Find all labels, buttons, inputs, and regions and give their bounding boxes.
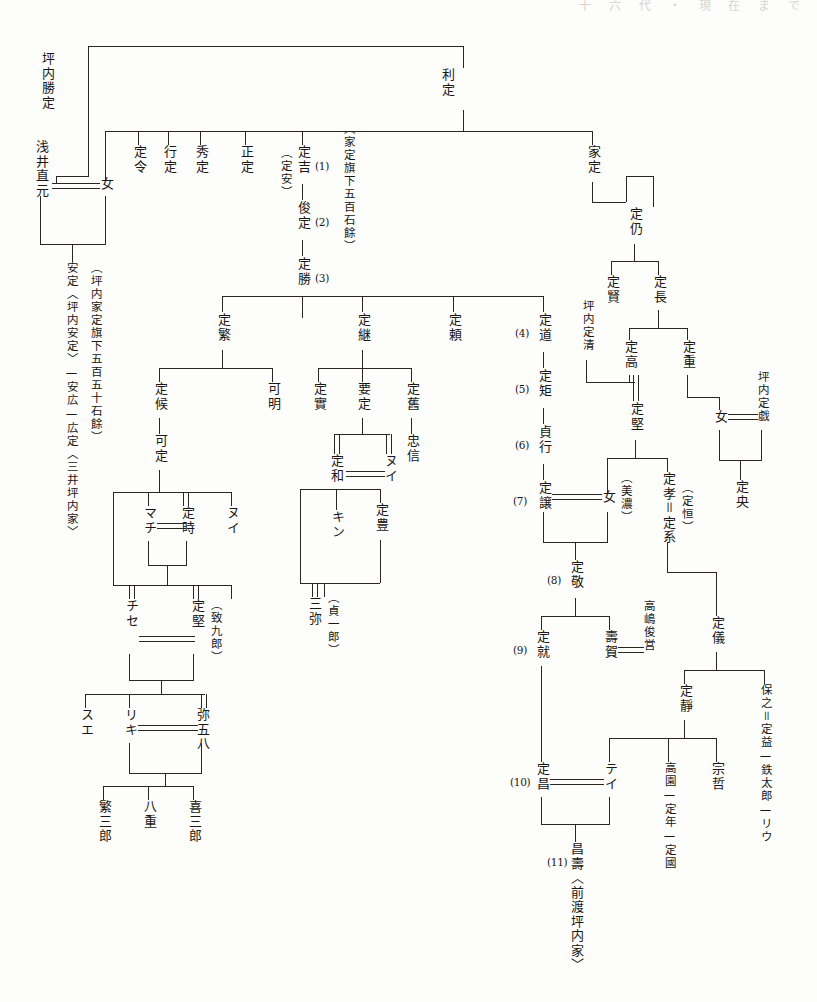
- line-sadakiyo-stem: [586, 360, 587, 382]
- line-iesada-stem: [592, 182, 593, 202]
- line-drop-sue: [85, 694, 86, 708]
- line-drop-musume1: [105, 131, 106, 181]
- person-iesada: 家定: [586, 145, 601, 174]
- line-sadataka-stem: [629, 375, 630, 382]
- line-toshisada-sadakatsu: [302, 240, 303, 256]
- line-drop-sadatoki: [183, 492, 189, 506]
- line-sadashizu-stem: [684, 720, 685, 738]
- gen-number-4: (4): [515, 327, 529, 339]
- person-sadakou: 定候: [153, 382, 168, 411]
- line-drop-sadakata: [611, 261, 612, 275]
- gen-number-9: (9): [513, 644, 527, 656]
- person-machi: マチ: [142, 506, 157, 535]
- line-drop-musume2: [719, 397, 720, 410]
- marriage-musume2-sadanari: [728, 414, 758, 420]
- line-drop-sadakata3: [193, 585, 199, 599]
- person-sadakata-2: 定堅: [629, 402, 644, 431]
- person-masaju: 昌壽〈前渡坪内家〉: [569, 842, 584, 973]
- line-drop-sadanaga: [658, 261, 659, 275]
- line-machi-child-drop: [167, 565, 168, 585]
- line-sadakazu-left-long: [300, 489, 301, 583]
- line-nui-down: [231, 585, 232, 599]
- alt-name-teiichirou: （貞一郎）: [325, 592, 339, 657]
- line-sadanaga-stem: [658, 310, 659, 328]
- line-sadataka2-stem: [667, 542, 668, 572]
- top-cutoff-text: 十 六 代 ・ 現 在 ま で: [579, 0, 807, 13]
- line-iesada-jog-bottom: [592, 202, 626, 203]
- line-sadatoki-right: [186, 541, 187, 565]
- line-drop-sadataka: [629, 328, 630, 340]
- person-sadayori: 定頼: [447, 313, 462, 342]
- person-sue: スエ: [79, 708, 94, 737]
- line-drop-sadashige1: [222, 296, 223, 312]
- line-gen-sadakatsu-bar: [222, 296, 543, 297]
- line-sadakata2-stem: [635, 440, 636, 458]
- line-sadakazu-drop: [336, 489, 337, 510]
- person-sadanao: 定仍: [628, 207, 643, 236]
- person-masasada: 正定: [239, 145, 254, 174]
- line-drop-machi: [148, 492, 149, 506]
- line-sadakazu-child-bar: [300, 489, 380, 490]
- person-sadakatsu: 定勝: [296, 257, 311, 286]
- line-tei-right: [609, 797, 610, 824]
- person-takashima: 高嶋俊営: [641, 600, 655, 652]
- person-sadakata-3: 定堅: [190, 599, 205, 628]
- person-sadataka: 定高: [623, 340, 638, 369]
- person-katsusada: 坪内勝定: [40, 52, 55, 110]
- line-yousada-stem: [362, 418, 363, 434]
- line-chise-left: [129, 654, 130, 680]
- line-sadashige2-stem: [687, 375, 688, 397]
- person-sadatoyo: 定豊: [374, 503, 389, 532]
- line-drop-sadazane: [318, 368, 319, 382]
- gen-number-7: (7): [513, 495, 527, 507]
- person-toshisada: 利定: [440, 68, 455, 97]
- person-nui: ヌイ: [225, 506, 240, 535]
- line-kasada-stem: [159, 470, 160, 492]
- line-sadakatsu-stem: [302, 296, 303, 318]
- gen-number-8: (8): [547, 574, 561, 586]
- line-sadayoshi-stem: [716, 652, 717, 670]
- line-drop-sadanori: [138, 131, 139, 145]
- line-iesada-jog-top: [626, 176, 653, 177]
- marriage-riki-yagohachi: [138, 725, 198, 731]
- line-toshisada-drop: [463, 46, 464, 68]
- line-musume2-left: [719, 430, 720, 460]
- person-miya: 三弥: [307, 597, 322, 626]
- person-takasono-line: 高園—定年—定國: [662, 762, 676, 870]
- line-sadakata3-right: [193, 654, 194, 680]
- person-yousada: 要定: [356, 382, 371, 411]
- person-sadamichi: 定道: [537, 313, 552, 342]
- line-sadakazu2-children-bar: [541, 616, 609, 617]
- line-drop-yukisada: [168, 131, 169, 145]
- note-iesada-koku: （家定旗下五百石餘）: [341, 123, 355, 253]
- line-drop-sadashizu: [684, 670, 685, 684]
- marriage-sadakazu-nui2: [346, 471, 385, 477]
- line-sue-riki-bar: [85, 694, 205, 695]
- line-gen0-bar: [88, 46, 463, 47]
- person-shigesaburou: 繁三郎: [97, 800, 112, 844]
- person-sadakazu: 定和: [329, 454, 344, 483]
- note-tsubouchi-koku: （坪内家定旗下五百五十石餘）: [88, 262, 102, 444]
- line-drop-sadakazu: [334, 434, 340, 454]
- line-drop-kamei: [272, 368, 273, 382]
- person-sadakichi: 定吉: [296, 145, 311, 174]
- person-sadanori-2: 定矩: [537, 369, 552, 398]
- line-drop-chise: [129, 585, 135, 599]
- line-sadashige1-bar: [159, 368, 272, 369]
- line-drop-takasono: [668, 738, 669, 762]
- line-drop-sadanari2: [541, 616, 542, 630]
- person-soutetsu: 宗哲: [710, 762, 725, 791]
- line-riki-left: [129, 743, 130, 773]
- line-sadashizu-bar: [609, 738, 716, 739]
- line-sadayuzuru-left: [543, 512, 544, 542]
- line-sadakazu2-stem: [575, 598, 576, 616]
- gen-number-2: (2): [315, 216, 329, 228]
- line-drop-tei: [609, 738, 610, 762]
- alt-name-sadatsune: （定恒）: [679, 482, 693, 534]
- line-drop-hidesada: [200, 131, 201, 145]
- alt-name-sadayasu: （定安）: [278, 147, 292, 199]
- line-sadayuki-sadayuzuru: [543, 464, 544, 480]
- marriage-asai-musume: [52, 183, 100, 189]
- line-drop-yasushi: [764, 670, 765, 684]
- marriage-machi-sadatoki: [157, 523, 186, 529]
